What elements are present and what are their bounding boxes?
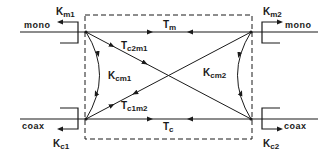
node-bottom-left bbox=[84, 117, 87, 120]
node-bottom-right bbox=[249, 117, 252, 120]
coupling-diagram: mono mono coax coax Km1 Km2 Kc1 Kc2 Tm T… bbox=[0, 0, 334, 154]
label-kcm2: Kcm2 bbox=[203, 67, 227, 80]
label-kc2: Kc2 bbox=[263, 138, 280, 151]
label-tc1m2: Tc1m2 bbox=[121, 100, 148, 113]
label-kcm1: Kcm1 bbox=[108, 70, 132, 83]
kcm1-curve bbox=[86, 32, 100, 119]
kcm2-curve bbox=[238, 32, 252, 119]
port-label-coax-left: coax bbox=[22, 121, 45, 131]
port-label-mono-right: mono bbox=[285, 20, 312, 30]
label-tc: Tc bbox=[163, 121, 174, 134]
node-top-right bbox=[249, 30, 252, 33]
label-kc1: Kc1 bbox=[53, 138, 70, 151]
port-label-coax-right: coax bbox=[284, 121, 307, 131]
port-label-mono-left: mono bbox=[24, 20, 51, 30]
label-km1: Km1 bbox=[56, 6, 75, 19]
label-tm: Tm bbox=[163, 19, 176, 32]
node-top-left bbox=[84, 30, 87, 33]
label-tc2m1: Tc2m1 bbox=[121, 40, 148, 53]
label-km2: Km2 bbox=[263, 6, 282, 19]
